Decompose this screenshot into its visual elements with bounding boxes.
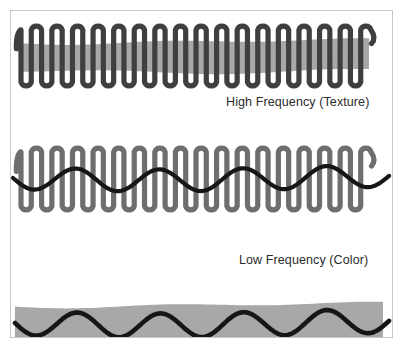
figure-root: High Frequency (Texture) Low Frequency (… [0,0,415,352]
panel-high-frequency: High Frequency (Texture) [11,11,392,121]
figure-canvas: High Frequency (Texture) Low Frequency (… [10,10,393,338]
panel-combined [11,131,392,241]
high-frequency-squiggle [16,148,374,210]
caption-low-frequency: Low Frequency (Color) [239,253,368,267]
panel-low-frequency: Low Frequency (Color) [11,251,392,337]
high-frequency-squiggle [16,26,374,86]
combined-illustration [11,131,392,241]
gray-band [15,302,383,338]
low-frequency-wave [13,166,389,191]
low-frequency-illustration [11,273,392,338]
caption-high-frequency: High Frequency (Texture) [226,95,369,109]
